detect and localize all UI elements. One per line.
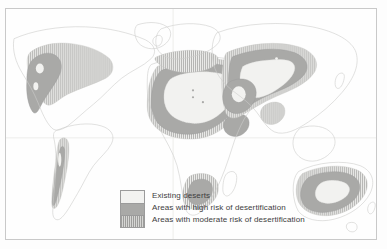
- map-legend: Existing deserts Areas with high risk of…: [120, 190, 305, 228]
- figure-root: Existing deserts Areas with high risk of…: [0, 0, 387, 249]
- legend-swatch-moderate-risk: [121, 215, 144, 227]
- af-oasis-dot-1: [192, 89, 194, 91]
- na-existing-desert-mojave: [33, 82, 38, 90]
- legend-label-high-risk: Areas with high risk of desertification: [152, 202, 305, 214]
- af-oasis-dot-2: [192, 96, 194, 98]
- as-desert-dot-gobi: [275, 57, 278, 60]
- af-oasis-dot-3: [202, 101, 204, 103]
- legend-swatch-column: [120, 190, 145, 228]
- sa-existing-desert-atacama: [58, 153, 61, 167]
- legend-label-moderate-risk: Areas with moderate risk of desertificat…: [152, 214, 305, 226]
- na-existing-desert-great-basin: [36, 64, 44, 74]
- legend-label-column: Existing deserts Areas with high risk of…: [152, 190, 305, 226]
- legend-swatch-high-risk: [121, 203, 144, 215]
- legend-swatch-existing-deserts: [121, 191, 144, 203]
- legend-label-existing-deserts: Existing deserts: [152, 190, 305, 202]
- as-existing-desert-arabia: [232, 86, 246, 102]
